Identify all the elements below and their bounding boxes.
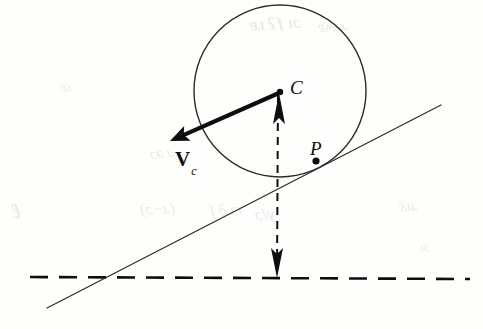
velocity-label-V: V bbox=[175, 147, 190, 171]
velocity-label-subscript: c bbox=[191, 164, 196, 178]
velocity-label-group: Vc bbox=[175, 149, 196, 172]
center-point-C bbox=[277, 89, 283, 95]
contact-label-P: P bbox=[310, 139, 322, 158]
up-arrow-head bbox=[273, 93, 285, 124]
figure-canvas: ɔı ƒʔ ʟɐɹǝʍɐɹ ǝɔℓ(ɹ−ɔ)ıɔ ∂ ʃy/ɔɹıʎʎɐɔı C… bbox=[0, 0, 483, 329]
vertical-height-line bbox=[277, 95, 278, 272]
center-label-C: C bbox=[290, 78, 303, 97]
horizontal-reference-line bbox=[30, 277, 470, 279]
rolling-circle-diagram bbox=[0, 0, 483, 329]
